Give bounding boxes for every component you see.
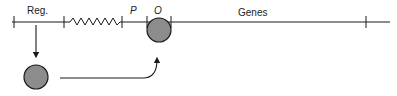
promoter-label: P — [130, 5, 137, 16]
regulator-label: Reg. — [27, 5, 48, 16]
free-repressor-circle — [24, 65, 48, 89]
genes-label: Genes — [238, 7, 267, 18]
binding-arrow — [60, 60, 157, 78]
operon-diagram: Reg. P O Genes — [0, 0, 397, 96]
spacer-zigzag — [64, 18, 122, 25]
dna-strand — [12, 18, 390, 25]
bound-repressor-circle — [147, 18, 171, 42]
operator-label: O — [154, 5, 162, 16]
